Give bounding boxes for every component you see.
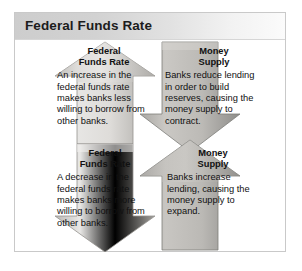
- cell-top-left: Federal Funds Rate An increase in the fe…: [55, 46, 153, 127]
- cell-top-right: Money Supply Banks reduce lending in ord…: [165, 46, 263, 127]
- figure-title-bar: Federal Funds Rate: [15, 13, 285, 40]
- cell-bottom-left: Federal Funds Rate A decrease in the fed…: [55, 148, 155, 229]
- cell-top-left-heading: Federal Funds Rate: [55, 46, 153, 67]
- cell-bottom-left-heading-line1: Federal: [88, 148, 121, 158]
- cell-bottom-left-body: A decrease in the federal funds rate mak…: [55, 172, 155, 229]
- cell-bottom-right: Money Supply Banks increase lending, cau…: [165, 148, 261, 218]
- page-title: Federal Funds Rate: [25, 18, 152, 33]
- diagram-canvas: Federal Funds Rate An increase in the fe…: [15, 40, 285, 252]
- federal-funds-rate-figure: Federal Funds Rate: [0, 0, 302, 271]
- cell-top-left-heading-line1: Federal: [87, 46, 120, 56]
- cell-top-right-heading: Money Supply: [165, 46, 263, 67]
- cell-bottom-left-heading: Federal Funds Rate: [55, 148, 155, 169]
- cell-top-left-heading-line2: Funds Rate: [79, 57, 130, 67]
- cell-bottom-right-body: Banks increase lending, causing the mone…: [165, 172, 261, 218]
- cell-bottom-right-heading-line2: Supply: [198, 159, 229, 169]
- cell-bottom-left-heading-line2: Funds Rate: [80, 159, 131, 169]
- cell-top-left-body: An increase in the federal funds rate ma…: [55, 70, 153, 127]
- cell-top-right-body: Banks reduce lending in order to build r…: [165, 70, 263, 127]
- cell-bottom-right-heading: Money Supply: [165, 148, 261, 169]
- figure-panel: Federal Funds Rate: [14, 12, 286, 252]
- cell-top-right-heading-line2: Supply: [199, 57, 230, 67]
- cell-bottom-right-heading-line1: Money: [198, 148, 227, 158]
- cell-top-right-heading-line1: Money: [199, 46, 228, 56]
